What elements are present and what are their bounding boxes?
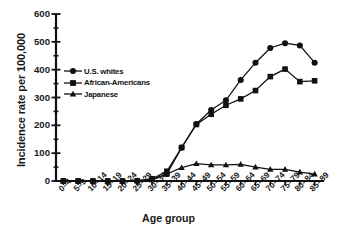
chart-legend: U.S. whitesAfrican-AmericansJapanese	[63, 66, 150, 101]
triangle-marker-icon	[63, 89, 83, 99]
legend-label: Japanese	[83, 90, 118, 99]
plot-canvas	[0, 0, 337, 232]
series-u-s-whites	[60, 40, 317, 184]
legend-item: U.S. whites	[63, 66, 150, 76]
legend-item: African-Americans	[63, 78, 150, 88]
legend-label: U.S. whites	[83, 67, 123, 76]
data-series	[60, 40, 318, 184]
square-marker-icon	[63, 78, 83, 88]
circle-marker-icon	[63, 66, 83, 76]
incidence-rate-line-chart: Incidence rate per 100,000 Age group 010…	[0, 0, 337, 232]
legend-label: African-Americans	[83, 78, 150, 87]
legend-item: Japanese	[63, 89, 150, 99]
